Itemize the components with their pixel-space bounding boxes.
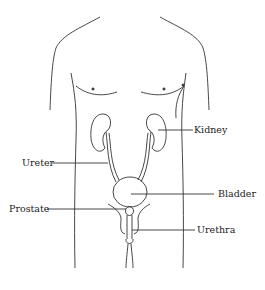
left-pelvic-line: [108, 204, 125, 234]
left-nipple: [92, 88, 94, 90]
bladder-label: Bladder: [218, 189, 256, 199]
urethra-label: Urethra: [197, 225, 235, 235]
bladder: [113, 177, 147, 207]
right-pelvic-line: [134, 204, 150, 234]
kidney-label: Kidney: [194, 125, 227, 135]
prostate-label: Prostate: [9, 204, 49, 214]
right-chest-line: [141, 86, 184, 95]
left-torso-outline: [71, 73, 76, 268]
right-nipple: [163, 88, 165, 90]
urinary-system-diagram: [0, 0, 265, 290]
ureter-label: Ureter: [22, 158, 54, 168]
right-ureter: [141, 132, 151, 182]
prostate: [126, 207, 134, 216]
right-shoulder-outline: [160, 17, 209, 110]
right-torso-outline: [182, 73, 186, 268]
left-chest-line: [76, 86, 117, 95]
left-ureter: [106, 132, 116, 182]
lower-urethra: [126, 244, 133, 268]
urethra: [127, 215, 132, 239]
